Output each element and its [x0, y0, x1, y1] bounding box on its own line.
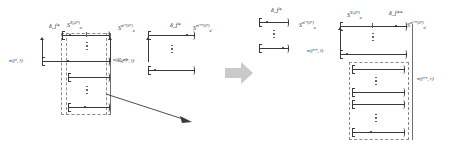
- left-panel-s-alpha-prime-label: Snƒ**(δ*)α': [193, 25, 212, 34]
- right-interval-fourth: [352, 88, 405, 97]
- left-panel-right-interval-bottom-point: [154, 69, 156, 71]
- left-panel-right-measure-stem: [148, 38, 149, 62]
- left-measure-left-text: n(f*, l): [9, 58, 23, 63]
- left-interval-second-point: [67, 60, 69, 62]
- left-panel-right-measure-text: n(f**, l): [118, 58, 134, 63]
- right-interval-fourth-bar: [352, 92, 405, 93]
- left-measure-arrow: [39, 38, 45, 64]
- right-side-ellipsis: [273, 30, 275, 40]
- right-s-alpha-n1-label: SN₁(δ*)α: [347, 12, 362, 21]
- right-side-interval-top-close-paren: [286, 18, 289, 27]
- left-panel-s-right-group-label: Snƒ*(δ*)α: [118, 25, 135, 34]
- right-side-delta-text: δ_f*: [271, 7, 281, 13]
- right-interval-second-point: [346, 53, 348, 55]
- right-interval-fourth-close-paren: [402, 88, 405, 97]
- right-delta-2star-text: δ_f**: [389, 10, 402, 16]
- left-delta-f-star-label: δ_f*: [49, 23, 59, 29]
- left-panel-right-ellipsis: [171, 45, 173, 55]
- right-sl-superscript: nƒ*(δ*): [302, 21, 314, 25]
- right-interval-top-point: [395, 25, 397, 27]
- left-panel-right-measure-label: n(f**, l): [118, 58, 134, 63]
- left-panel-dashed-guide-inner: [66, 33, 67, 115]
- left-panel-right-measure-arrow: [145, 38, 151, 62]
- left-measure-left-label: n(f*, l): [9, 58, 23, 63]
- right-interval-top: [340, 22, 407, 31]
- right-delta-f-2star-label: δ_f**: [389, 10, 402, 16]
- right-st-superscript: N₁(δ*): [350, 11, 360, 15]
- left-ellipsis-lower: [86, 86, 88, 96]
- right-side-interval-top: [259, 18, 289, 27]
- right-interval-fifth: [352, 100, 405, 109]
- transition-right-arrow-icon: [225, 62, 254, 84]
- left-panel-sp-superscript: nƒ**(δ*): [196, 24, 210, 28]
- left-interval-third: [68, 73, 110, 82]
- right-interval-second-close-paren: [404, 50, 407, 59]
- right-s-alpha-left-label: Snƒ*(δ*)α: [299, 22, 316, 31]
- left-panel-right-interval-top: [148, 31, 195, 40]
- left-delta-f-star-text: δ_f*: [49, 23, 59, 29]
- right-measure-arrow-left: [337, 28, 343, 54]
- right-interval-bottom-close-paren: [402, 128, 405, 137]
- right-interval-bottom-point: [370, 131, 372, 133]
- right-measure-right-text: n(f**, r): [417, 76, 434, 81]
- right-ellipsis-lower: [375, 114, 377, 124]
- left-measure-stem: [42, 38, 43, 64]
- left-interval-third-bar: [68, 77, 110, 78]
- right-interval-third-bar: [352, 69, 405, 70]
- right-measure-left-stem: [340, 28, 341, 54]
- left-sr-subscript: α: [133, 29, 135, 33]
- left-panel-right-interval-bottom: [148, 66, 195, 75]
- right-ellipsis-upper: [372, 33, 374, 43]
- right-interval-second-bar: [340, 54, 407, 55]
- right-interval-bottom-bar: [352, 132, 405, 133]
- left-measure-right-stem: [110, 38, 111, 62]
- right-ellipsis-mid-upper: [375, 77, 377, 87]
- left-panel-right-interval-top-point: [186, 34, 188, 36]
- right-interval-second: [340, 50, 407, 59]
- left-panel-diagonal-arrow-icon: [104, 92, 196, 130]
- right-st-subscript: α: [360, 16, 362, 20]
- left-panel-right-interval-bottom-close-paren: [192, 66, 195, 75]
- right-side-interval-top-bar: [259, 22, 289, 23]
- left-s-superscript: N₀(δ*): [70, 21, 80, 25]
- right-interval-third: [352, 65, 405, 74]
- right-interval-top-close-paren: [404, 22, 407, 31]
- right-side-interval-bottom-point: [282, 47, 284, 49]
- left-interval-third-close-paren: [107, 73, 110, 82]
- right-side-interval-bottom-close-paren: [286, 44, 289, 53]
- right-interval-fifth-close-paren: [402, 100, 405, 109]
- right-panel: δ_f* Snƒ*(δ*)α SN₁(δ*)α δ_f**: [255, 0, 462, 150]
- left-s-subscript: α: [80, 26, 82, 30]
- transition-arrow-shaft: [225, 68, 242, 78]
- right-sr-subscript: α': [424, 26, 427, 30]
- left-panel-sp-subscript: α': [210, 29, 213, 33]
- left-sr-superscript: nƒ*(δ*): [121, 24, 133, 28]
- right-interval-bottom: [352, 128, 405, 137]
- left-interval-bottom-point: [84, 106, 86, 108]
- transition-arrow-head: [241, 62, 253, 84]
- left-panel-delta-f-star-r-label: δ_f*: [170, 22, 180, 28]
- left-s-alpha-n0-label: SN₀(δ*)α: [67, 22, 82, 31]
- right-panel-right-boundary: [412, 24, 413, 140]
- left-panel: δ_f* SN₀(δ*)α: [0, 0, 215, 150]
- right-side-interval-bottom-bar: [259, 48, 289, 49]
- left-interval-top-tick: [86, 32, 87, 37]
- right-sl-subscript: α: [314, 26, 316, 30]
- left-ellipsis-upper: [86, 42, 88, 52]
- left-interval-top-point: [69, 34, 71, 36]
- figure-canvas: δ_f* SN₀(δ*)α: [0, 0, 462, 150]
- right-interval-fifth-bar: [352, 104, 405, 105]
- left-panel-delta-r-text: δ_f*: [170, 22, 180, 28]
- right-interval-third-close-paren: [402, 65, 405, 74]
- right-side-interval-top-point: [266, 21, 268, 23]
- left-interval-second-bar: [42, 61, 110, 62]
- right-interval-top-tick: [372, 23, 373, 28]
- right-side-delta-f-star-label: δ_f*: [271, 7, 281, 13]
- right-measure-left-label: n(f**, l): [307, 48, 323, 53]
- left-interval-second: [42, 57, 110, 66]
- right-measure-right-label: n(f**, r): [417, 76, 434, 81]
- right-side-interval-bottom: [259, 44, 289, 53]
- right-s-alpha-prime-label: Snƒ**(δ*)α': [407, 22, 426, 31]
- right-measure-left-text: n(f**, l): [307, 48, 323, 53]
